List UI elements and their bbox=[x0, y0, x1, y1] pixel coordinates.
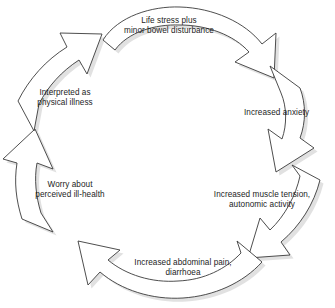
label-line: perceived ill-health bbox=[14, 190, 126, 200]
node-label-life-stress: Life stress plus minor bowel disturbance bbox=[108, 16, 230, 37]
node-label-worry-ill-health: Worry about perceived ill-health bbox=[14, 180, 126, 201]
cycle-diagram: Life stress plus minor bowel disturbance… bbox=[0, 0, 335, 308]
node-label-increased-anxiety: Increased anxiety bbox=[244, 108, 334, 118]
label-line: diarrhoea bbox=[108, 268, 258, 278]
node-label-abdominal-pain: Increased abdominal pain, diarrhoea bbox=[108, 258, 258, 279]
label-line: Interpreted as bbox=[15, 88, 115, 98]
label-line: Life stress plus bbox=[108, 16, 230, 26]
node-label-interpreted-illness: Interpreted as physical illness bbox=[15, 88, 115, 109]
label-line: Worry about bbox=[14, 180, 126, 190]
label-line: Increased anxiety bbox=[244, 108, 334, 118]
label-line: physical illness bbox=[15, 98, 115, 108]
label-line: Increased muscle tension, bbox=[192, 190, 332, 200]
label-line: minor bowel disturbance bbox=[108, 26, 230, 36]
label-line: Increased abdominal pain, bbox=[108, 258, 258, 268]
label-line: autonomic activity bbox=[192, 200, 332, 210]
node-label-muscle-tension: Increased muscle tension, autonomic acti… bbox=[192, 190, 332, 211]
